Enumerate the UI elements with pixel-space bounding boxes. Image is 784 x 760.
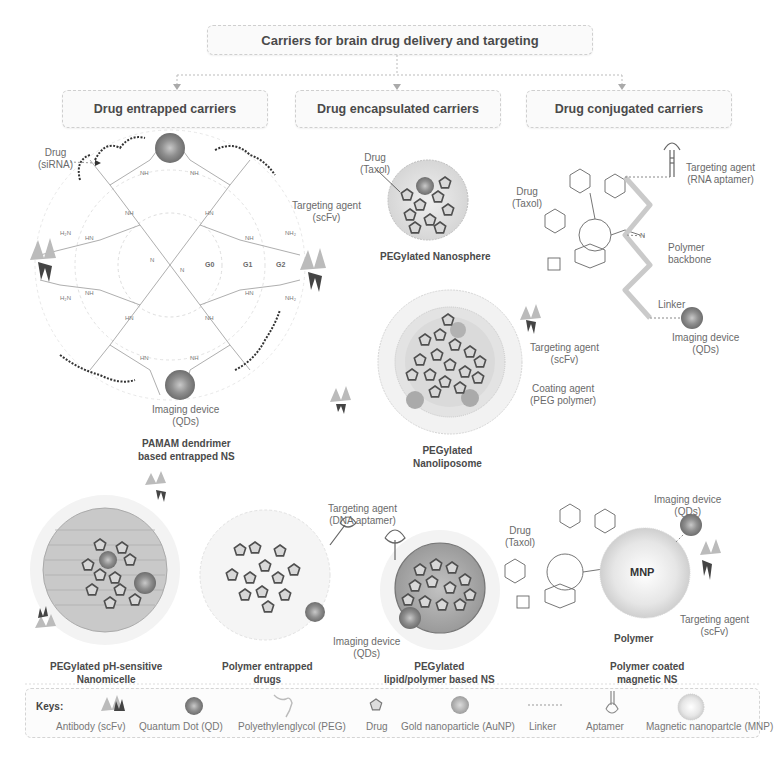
- pegylated-nanomicelle: [30, 471, 180, 645]
- linker-label: Linker: [658, 299, 685, 311]
- dendrimer-imaging-label: Imaging device(QDs): [152, 404, 219, 428]
- polymer-entrapped-title: Polymer entrappeddrugs: [222, 660, 313, 686]
- key-label-aptamer: Aptamer: [586, 721, 624, 732]
- dendrimer-drug-label: Drug(siRNA): [38, 147, 73, 171]
- key-label-gold-nanoparticle: Gold nanoparticle (AuNP): [401, 721, 515, 732]
- magnetic-imaging-label: Imaging device(QDs): [654, 494, 721, 518]
- dendrimer-generation-g2: G2: [276, 259, 285, 271]
- nanosphere-drug-label: Drug(Taxol): [360, 152, 390, 176]
- keys-legend: Keys: Antibody (scFv) Quantum Dot (QD) P…: [25, 688, 760, 738]
- svg-text:HN: HN: [140, 355, 149, 361]
- svg-text:NH: NH: [190, 170, 199, 176]
- magnetic-ns-title: Polymer coatedmagnetic NS: [610, 660, 684, 686]
- nanomicelle-title: PEGylated pH-sensitiveNanomicelle: [50, 660, 162, 686]
- nanoliposome-targeting-label: Targeting agent(scFv): [530, 342, 599, 366]
- key-label-antibody: Antibody (scFv): [56, 721, 125, 732]
- svg-text:N: N: [150, 257, 154, 263]
- svg-text:NH: NH: [125, 210, 134, 216]
- svg-text:NH: NH: [85, 290, 94, 296]
- dendrimer-generation-g0: G0: [205, 259, 214, 271]
- rna-aptamer: [664, 143, 680, 177]
- pegylated-nanosphere: [377, 160, 468, 240]
- magnetic-nanoparticle-icon: [678, 694, 704, 720]
- polymer-coated-magnetic-ns: [505, 504, 721, 618]
- svg-text:NH₂: NH₂: [285, 295, 297, 301]
- key-label-linker: Linker: [529, 721, 556, 732]
- key-label-drug: Drug: [366, 721, 388, 732]
- quantum-dot-bottom: [165, 370, 195, 400]
- dendrimer-targeting-label: Targeting agent(scFv): [292, 200, 361, 224]
- polymer-entrapped-drugs: [200, 510, 356, 640]
- svg-text:NH: NH: [190, 355, 199, 361]
- drug-icon: [370, 699, 381, 710]
- svg-text:H₂N: H₂N: [60, 230, 71, 236]
- svg-text:HN: HN: [125, 315, 134, 321]
- svg-text:HN: HN: [85, 235, 94, 241]
- svg-text:NH: NH: [245, 235, 254, 241]
- nanoliposome-title: PEGylatedNanoliposome: [413, 444, 482, 470]
- key-label-quantum-dot: Quantum Dot (QD): [139, 721, 223, 732]
- nanosphere-title: PEGylated Nanosphere: [380, 250, 491, 263]
- polymer-backbone-label: Polymerbackbone: [668, 242, 711, 266]
- conjugate-drug-label: Drug(Taxol): [512, 186, 542, 210]
- antibody-liposome-left: [330, 386, 351, 414]
- dendrimer-title: PAMAM dendrimerbased entrapped NS: [138, 437, 235, 463]
- gold-nanoparticle-icon: [451, 696, 469, 714]
- conjugate-targeting-label: Targeting agent(RNA aptamer): [686, 162, 755, 186]
- svg-text:H₂N: H₂N: [60, 295, 71, 301]
- conjugate-imaging-label: Imaging device(QDs): [672, 332, 739, 356]
- svg-text:NH: NH: [140, 170, 149, 176]
- svg-text:N: N: [180, 267, 184, 273]
- pegylated-lipid-polymer-ns: [380, 530, 500, 650]
- magnetic-polymer-label: Polymer: [614, 632, 653, 645]
- svg-text:HN: HN: [245, 290, 254, 296]
- quantum-dot-top: [155, 133, 185, 163]
- mnp-core-label: MNP: [630, 566, 654, 579]
- aptamer-icon: [606, 691, 618, 713]
- key-label-peg: Polyethylenglycol (PEG): [238, 721, 346, 732]
- antibody-liposome-top: [520, 304, 541, 334]
- key-label-magnetic-nanoparticle: Magnetic nanopartcle (MNP): [646, 721, 773, 732]
- antibody-left: [30, 238, 56, 282]
- svg-text:NH: NH: [205, 315, 214, 321]
- lipid-polymer-title: PEGylatedlipid/polymer based NS: [384, 660, 495, 686]
- polymer-entrapped-imaging-label: Imaging device(QDs): [333, 636, 400, 660]
- quantum-dot-icon: [185, 697, 203, 715]
- coating-agent-label: Coating agent(PEG polymer): [530, 383, 596, 407]
- svg-text:NH₂: NH₂: [285, 230, 297, 236]
- antibody-icon: [101, 695, 125, 711]
- antibody-magnetic: [700, 539, 721, 580]
- peg-icon: [274, 695, 292, 717]
- polymer-entrapped-targeting-label: Targeting agent(DNA aptamer): [328, 503, 397, 527]
- magnetic-targeting-label: Targeting agent(scFv): [680, 614, 749, 638]
- dendrimer-generation-g1: G1: [243, 259, 252, 271]
- pegylated-nanoliposome: [330, 290, 541, 434]
- antibody-micelle-top: [145, 471, 166, 502]
- svg-text:HN: HN: [205, 210, 214, 216]
- magnetic-drug-label: Drug(Taxol): [505, 525, 535, 549]
